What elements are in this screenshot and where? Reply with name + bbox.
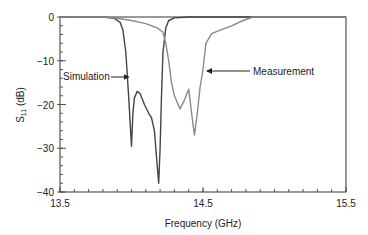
y-tick-label: −30 bbox=[37, 143, 54, 154]
y-axis-label-sub: 11 bbox=[20, 109, 27, 116]
series-line-simulation bbox=[60, 17, 346, 183]
annotations: SimulationMeasurement bbox=[63, 66, 314, 82]
y-tick-label: −40 bbox=[37, 187, 54, 198]
x-tick-label: 14.5 bbox=[193, 198, 213, 209]
s11-chart: 13.514.515.5 0−10−20−30−40 SimulationMea… bbox=[0, 0, 368, 235]
y-tick-label: −20 bbox=[37, 100, 54, 111]
plot-border bbox=[60, 17, 346, 192]
x-tick-label: 15.5 bbox=[336, 198, 356, 209]
y-axis-label-unit: (dB) bbox=[15, 87, 26, 109]
x-axis-ticks: 13.514.515.5 bbox=[50, 187, 356, 209]
y-tick-label: −10 bbox=[37, 56, 54, 67]
y-axis-ticks: 0−10−20−30−40 bbox=[37, 12, 66, 198]
series-lines bbox=[60, 17, 346, 183]
x-axis-label: Frequency (GHz) bbox=[165, 218, 242, 229]
y-tick-label: 0 bbox=[48, 12, 54, 23]
annotation-simulation: Simulation bbox=[63, 71, 110, 82]
x-tick-label: 13.5 bbox=[50, 198, 70, 209]
y-axis-label: S11 (dB) bbox=[15, 87, 27, 123]
annotation-measurement: Measurement bbox=[253, 66, 314, 77]
plot-frame bbox=[60, 17, 346, 192]
